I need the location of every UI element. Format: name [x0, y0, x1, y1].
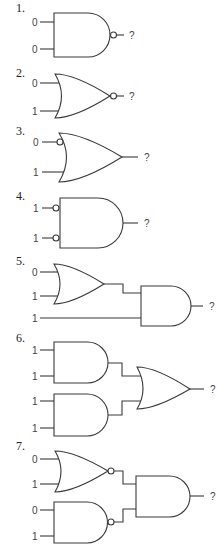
problem-number: 7.	[16, 439, 25, 453]
input-label: 0	[33, 137, 39, 148]
input-label: 0	[32, 78, 38, 89]
output-unknown: ?	[144, 152, 150, 163]
nand-gate	[54, 502, 107, 543]
logic-gate-diagram: 1. 0 0 ? 2. 0 1 ? 3. 0 1 ? 4. 1 1	[0, 0, 224, 548]
output-unknown: ?	[209, 301, 215, 312]
and-gate	[54, 342, 108, 383]
or-gate	[137, 367, 190, 409]
input-label: 1	[33, 203, 39, 214]
inverter-bubble	[108, 519, 114, 525]
input-label: 1	[33, 233, 39, 244]
and-gate	[136, 476, 190, 517]
problem-6: 6. 1 1 1 1 ?	[16, 331, 216, 436]
input-label: 0	[32, 17, 38, 28]
inverter-bubble	[111, 93, 117, 99]
nor-gate	[55, 74, 110, 118]
problem-1: 1. 0 0 ?	[16, 1, 135, 57]
output-unknown: ?	[210, 491, 216, 502]
input-label: 0	[32, 44, 38, 55]
inverter-bubble	[53, 235, 59, 241]
input-label: 1	[32, 371, 38, 382]
and-gate	[141, 286, 191, 326]
or-gate	[54, 264, 104, 304]
input-label: 0	[32, 267, 38, 278]
inverter-bubble	[111, 32, 117, 38]
inverter-bubble	[53, 205, 59, 211]
problem-number: 3.	[16, 124, 25, 138]
nand-gate	[54, 13, 110, 57]
output-unknown: ?	[129, 30, 135, 41]
inverter-bubble	[57, 139, 63, 145]
input-label: 1	[32, 423, 38, 434]
output-unknown: ?	[144, 218, 150, 229]
problem-number: 1.	[16, 1, 25, 15]
problem-number: 6.	[16, 331, 25, 345]
and-gate	[54, 394, 108, 436]
input-label: 1	[32, 291, 38, 302]
output-unknown: ?	[129, 91, 135, 102]
input-label: 1	[32, 396, 38, 407]
output-unknown: ?	[210, 384, 216, 395]
problem-2: 2. 0 1 ?	[16, 66, 135, 118]
problem-3: 3. 0 1 ?	[16, 124, 150, 182]
nor-gate	[55, 451, 108, 492]
input-label: 0	[32, 454, 38, 465]
inverter-bubble	[108, 468, 114, 474]
input-label: 1	[32, 345, 38, 356]
problem-number: 5.	[16, 254, 25, 268]
input-label: 1	[32, 531, 38, 542]
input-label: 1	[32, 479, 38, 490]
problem-5: 5. 0 1 1 ?	[16, 254, 215, 326]
input-label: 0	[32, 505, 38, 516]
or-gate	[59, 133, 122, 182]
problem-7: 7. 0 1 0 1 ?	[16, 439, 216, 543]
problem-4: 4. 1 1 ?	[16, 189, 150, 248]
problem-number: 4.	[16, 189, 25, 203]
input-label: 1	[32, 106, 38, 117]
input-label: 1	[33, 167, 39, 178]
and-gate	[60, 198, 123, 248]
input-label: 1	[32, 313, 38, 324]
problem-number: 2.	[16, 66, 25, 80]
